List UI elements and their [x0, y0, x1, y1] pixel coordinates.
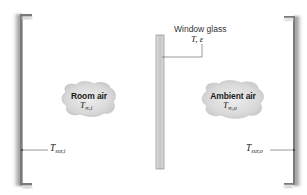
- window-glass-pane: [156, 35, 164, 169]
- room-air-temperature: T∞,i: [80, 100, 92, 111]
- window-leader-line: [162, 44, 202, 57]
- outside-surroundings-temperature: Tsur,o: [246, 143, 263, 154]
- right-surroundings-wall: [284, 16, 303, 188]
- ambient-air-temperature: T∞,o: [223, 100, 237, 111]
- left-surroundings-wall: [12, 14, 32, 189]
- tsur-o-dot: [293, 149, 295, 151]
- window-glass-properties: T, ε: [191, 34, 203, 44]
- inside-surroundings-temperature: Tsur,i: [50, 143, 65, 154]
- tsur-i-dot: [21, 149, 23, 151]
- window-glass-label: Window glass: [174, 24, 226, 34]
